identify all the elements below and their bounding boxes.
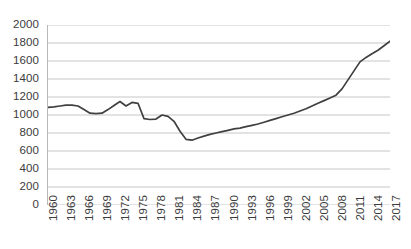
y-axis-tick-label: 800	[0, 127, 39, 138]
x-axis-tick-label: 1999	[276, 206, 288, 248]
x-axis-tick-label: 1966	[77, 206, 89, 248]
y-axis-tick-label: 400	[0, 163, 39, 174]
x-axis-tick-label: 2017	[384, 206, 396, 248]
x-axis-tick-label: 1984	[185, 206, 197, 248]
x-axis-tick-label: 1981	[167, 206, 179, 248]
y-axis-tick-label: 1200	[0, 91, 39, 102]
y-axis-tick-label: 1600	[0, 55, 39, 66]
y-axis-tick-label: 200	[0, 181, 39, 192]
x-axis-tick-label: 1960	[41, 206, 53, 248]
x-axis-tick-label: 1969	[95, 206, 107, 248]
y-axis-tick-label: 1800	[0, 37, 39, 48]
x-axis: 1960196319661969197219751978198119841987…	[47, 206, 390, 249]
x-axis-tick-label: 1990	[222, 206, 234, 248]
x-axis-tick-label: 2011	[348, 206, 360, 248]
line-chart: 2000180016001400120010008006004002000 19…	[0, 0, 411, 249]
y-axis-tick-label: 2000	[0, 19, 39, 30]
x-axis-tick-label: 2005	[312, 206, 324, 248]
x-axis-tick-label: 2014	[366, 206, 378, 248]
x-axis-tick-label: 1987	[203, 206, 215, 248]
x-axis-tick-label: 1996	[258, 206, 270, 248]
y-axis-tick-label: 1000	[0, 109, 39, 120]
x-axis-tick-label: 2002	[294, 206, 306, 248]
data-series-line	[48, 25, 390, 205]
y-axis-tick-label: 1400	[0, 73, 39, 84]
series-polyline	[48, 41, 390, 140]
x-axis-tick-label: 1963	[59, 206, 71, 248]
x-axis-tick-label: 1972	[113, 206, 125, 248]
y-axis-tick-label: 0	[0, 199, 39, 210]
x-axis-tick-label: 2008	[330, 206, 342, 248]
plot-area	[47, 25, 390, 205]
x-axis-tick-label: 1975	[131, 206, 143, 248]
y-axis: 2000180016001400120010008006004002000	[0, 0, 44, 249]
x-axis-tick-label: 1993	[240, 206, 252, 248]
x-axis-tick-label: 1978	[149, 206, 161, 248]
y-axis-tick-label: 600	[0, 145, 39, 156]
